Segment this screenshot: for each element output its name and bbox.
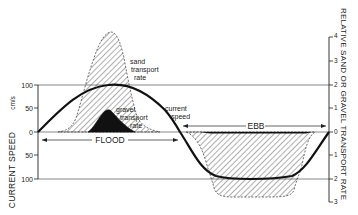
right-axis-title: RELATIVE SAND OR GRAVEL TRANSPORT RATE (339, 8, 348, 200)
svg-text:rate: rate (134, 74, 146, 81)
left-axis-title: CURRENT SPEED (7, 132, 17, 208)
right-tick-1-bottom: 1 (334, 151, 338, 158)
right-tick-4: 4 (334, 32, 338, 39)
svg-text:sand: sand (130, 58, 145, 65)
left-tick-50-bottom: 50 (25, 152, 33, 159)
left-axis: 100 50 0 50 100 CURRENT SPEED cm/s (7, 82, 38, 208)
left-tick-50-top: 50 (25, 105, 33, 112)
right-axis: 4 3 2 1 0 1 2 3 RELATIVE SAND OR GRAVEL … (329, 8, 348, 205)
tidal-transport-diagram: 100 50 0 50 100 CURRENT SPEED cm/s 4 3 2… (0, 0, 358, 215)
flood-arrow: FLOOD (42, 135, 178, 145)
right-tick-3: 3 (334, 57, 338, 64)
right-tick-2-bottom: 2 (334, 175, 338, 182)
right-tick-2-top: 2 (334, 81, 338, 88)
sand-label: sand transport rate (130, 58, 159, 81)
right-tick-0: 0 (334, 128, 338, 135)
sand-transport-ebb (186, 132, 315, 197)
svg-text:transport: transport (131, 66, 159, 74)
ebb-label: EBB (247, 121, 264, 131)
left-axis-units: cm/s (9, 95, 16, 109)
left-tick-100-bottom: 100 (21, 176, 33, 183)
right-tick-1-top: 1 (334, 104, 338, 111)
left-tick-100-top: 100 (21, 82, 33, 89)
right-tick-3-bottom: 3 (334, 198, 338, 205)
left-tick-0: 0 (29, 129, 33, 136)
gravel-transport-ebb (200, 132, 312, 134)
svg-text:current: current (165, 105, 187, 112)
svg-text:gravel: gravel (116, 106, 136, 114)
svg-text:transport: transport (120, 114, 148, 122)
flood-label: FLOOD (95, 135, 124, 145)
svg-text:rate: rate (130, 122, 142, 129)
ebb-arrow: EBB (183, 121, 326, 131)
svg-text:speed: speed (171, 113, 190, 121)
